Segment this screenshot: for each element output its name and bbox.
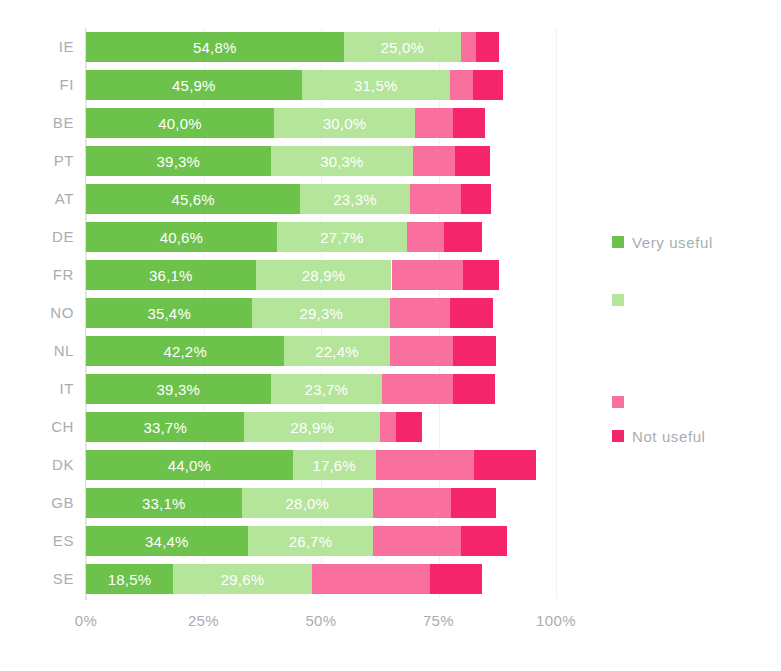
bar-value-label: 39,3% bbox=[157, 381, 201, 398]
bar-segment bbox=[453, 374, 495, 404]
bar-row: 35,4%29,3% bbox=[86, 298, 556, 328]
bar-value-label: 33,1% bbox=[142, 495, 186, 512]
bar-value-label: 18,5% bbox=[108, 571, 152, 588]
y-axis-tick-se: SE bbox=[0, 564, 74, 594]
x-axis-tick-25: 25% bbox=[169, 612, 239, 629]
bar-value-label: 25,0% bbox=[381, 39, 425, 56]
legend-swatch-icon bbox=[612, 430, 624, 442]
bar-segment bbox=[444, 222, 482, 252]
bar-value-label: 23,7% bbox=[305, 381, 349, 398]
bar-segment bbox=[413, 146, 455, 176]
bar-segment: 27,7% bbox=[277, 222, 407, 252]
bar-segment: 33,7% bbox=[86, 412, 244, 442]
bar-value-label: 17,6% bbox=[312, 457, 356, 474]
bar-segment: 40,6% bbox=[86, 222, 277, 252]
bar-value-label: 35,4% bbox=[147, 305, 191, 322]
legend-item-0[interactable]: Very useful bbox=[612, 234, 713, 250]
bar-segment: 26,7% bbox=[248, 526, 373, 556]
y-axis-tick-dk: DK bbox=[0, 450, 74, 480]
bar-value-label: 23,3% bbox=[333, 191, 377, 208]
bar-segment bbox=[312, 564, 430, 594]
bar-segment bbox=[473, 70, 503, 100]
x-axis-tick-75: 75% bbox=[404, 612, 474, 629]
bar-segment: 42,2% bbox=[86, 336, 284, 366]
bar-segment bbox=[376, 450, 474, 480]
bar-value-label: 27,7% bbox=[320, 229, 364, 246]
bar-value-label: 28,9% bbox=[291, 419, 335, 436]
bar-segment: 31,5% bbox=[302, 70, 450, 100]
bar-segment bbox=[407, 222, 444, 252]
bar-segment: 29,3% bbox=[252, 298, 390, 328]
bar-value-label: 45,9% bbox=[172, 77, 216, 94]
bar-segment: 35,4% bbox=[86, 298, 252, 328]
bar-value-label: 42,2% bbox=[163, 343, 207, 360]
y-axis-tick-gb: GB bbox=[0, 488, 74, 518]
bar-segment bbox=[461, 184, 492, 214]
bar-row: 36,1%28,9% bbox=[86, 260, 556, 290]
y-axis-tick-fi: FI bbox=[0, 70, 74, 100]
y-axis-tick-es: ES bbox=[0, 526, 74, 556]
bar-segment bbox=[392, 260, 463, 290]
y-axis-tick-no: NO bbox=[0, 298, 74, 328]
bar-segment: 23,7% bbox=[271, 374, 382, 404]
legend-item-2[interactable] bbox=[612, 394, 632, 410]
bar-value-label: 39,3% bbox=[157, 153, 201, 170]
bar-segment bbox=[373, 488, 451, 518]
bar-segment bbox=[451, 488, 496, 518]
bar-segment bbox=[415, 108, 453, 138]
bar-segment bbox=[453, 108, 486, 138]
bar-segment: 40,0% bbox=[86, 108, 274, 138]
bar-segment bbox=[373, 526, 460, 556]
y-axis-tick-ch: CH bbox=[0, 412, 74, 442]
bar-segment: 30,0% bbox=[274, 108, 415, 138]
y-axis-tick-ie: IE bbox=[0, 32, 74, 62]
bar-segment bbox=[463, 260, 499, 290]
x-axis-tick-0: 0% bbox=[51, 612, 121, 629]
legend-item-1[interactable] bbox=[612, 292, 632, 308]
bar-segment: 28,0% bbox=[242, 488, 374, 518]
bar-value-label: 28,9% bbox=[302, 267, 346, 284]
bar-segment bbox=[455, 146, 490, 176]
bar-value-label: 30,0% bbox=[323, 115, 367, 132]
bar-segment: 30,3% bbox=[271, 146, 413, 176]
bar-segment bbox=[453, 336, 496, 366]
bar-segment bbox=[461, 32, 476, 62]
bar-segment bbox=[390, 336, 453, 366]
bar-segment: 54,8% bbox=[86, 32, 344, 62]
bar-value-label: 54,8% bbox=[193, 39, 237, 56]
bar-segment: 28,9% bbox=[244, 412, 380, 442]
bar-value-label: 40,0% bbox=[158, 115, 202, 132]
plot-area: 54,8%25,0%45,9%31,5%40,0%30,0%39,3%30,3%… bbox=[86, 28, 556, 598]
stacked-bar-chart: 54,8%25,0%45,9%31,5%40,0%30,0%39,3%30,3%… bbox=[0, 0, 781, 671]
bar-value-label: 22,4% bbox=[315, 343, 359, 360]
bar-value-label: 45,6% bbox=[171, 191, 215, 208]
bar-segment bbox=[390, 298, 450, 328]
legend-label: Not useful bbox=[632, 428, 706, 445]
bar-segment: 25,0% bbox=[344, 32, 462, 62]
bar-segment bbox=[476, 32, 499, 62]
bar-segment: 17,6% bbox=[293, 450, 376, 480]
bar-segment: 45,6% bbox=[86, 184, 300, 214]
y-axis-tick-de: DE bbox=[0, 222, 74, 252]
bar-segment bbox=[450, 298, 493, 328]
bar-row: 33,7%28,9% bbox=[86, 412, 556, 442]
bar-value-label: 36,1% bbox=[149, 267, 193, 284]
bar-row: 18,5%29,6% bbox=[86, 564, 556, 594]
bar-segment bbox=[410, 184, 461, 214]
legend-item-3[interactable]: Not useful bbox=[612, 428, 706, 444]
bar-segment bbox=[382, 374, 453, 404]
bar-segment: 18,5% bbox=[86, 564, 173, 594]
x-axis-tick-50: 50% bbox=[286, 612, 356, 629]
bar-value-label: 30,3% bbox=[320, 153, 364, 170]
bar-row: 45,6%23,3% bbox=[86, 184, 556, 214]
bar-row: 42,2%22,4% bbox=[86, 336, 556, 366]
bar-segment bbox=[450, 70, 474, 100]
bar-segment: 22,4% bbox=[284, 336, 389, 366]
bar-segment bbox=[430, 564, 483, 594]
bar-value-label: 44,0% bbox=[168, 457, 212, 474]
bar-segment bbox=[396, 412, 422, 442]
bar-row: 40,0%30,0% bbox=[86, 108, 556, 138]
bar-segment bbox=[461, 526, 508, 556]
bar-segment: 45,9% bbox=[86, 70, 302, 100]
bar-row: 54,8%25,0% bbox=[86, 32, 556, 62]
